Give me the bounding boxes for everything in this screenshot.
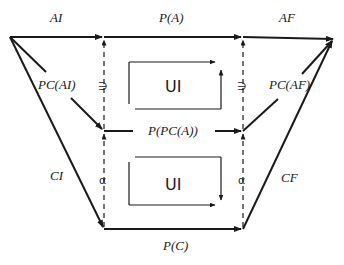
label-pa: P(A) bbox=[158, 10, 184, 25]
diagram-canvas: UI UI AI P(A) AF PC(AI) PC(AF) P(PC(A)) … bbox=[0, 0, 344, 265]
symbol-alpha-left: α bbox=[99, 174, 106, 187]
label-pc-ai: PC(AI) bbox=[37, 77, 76, 92]
edge-cf bbox=[243, 41, 332, 229]
edge-pc-af-lower bbox=[243, 99, 278, 131]
label-ci: CI bbox=[50, 168, 64, 183]
edge-af bbox=[243, 37, 333, 39]
lower-ui-symbol: UI bbox=[165, 175, 181, 194]
label-af: AF bbox=[278, 10, 296, 25]
edge-ci bbox=[10, 37, 103, 227]
upper-ui-symbol: UI bbox=[165, 77, 181, 96]
edge-pc-af-upper bbox=[302, 41, 332, 74]
label-ppca: P(PC(A)) bbox=[147, 123, 198, 138]
lower-ui-box: UI bbox=[129, 157, 221, 205]
symbol-alpha-right: α bbox=[238, 174, 245, 187]
label-ai: AI bbox=[49, 10, 63, 25]
edge-pc-ai-upper bbox=[10, 37, 46, 72]
label-cf: CF bbox=[281, 170, 299, 185]
diagram-svg: UI UI AI P(A) AF PC(AI) PC(AF) P(PC(A)) … bbox=[0, 0, 344, 265]
symbol-contains-right: ∋ bbox=[237, 80, 247, 93]
label-pc: P(C) bbox=[162, 238, 188, 253]
upper-ui-box: UI bbox=[129, 62, 221, 109]
edge-pc-ai-lower bbox=[71, 98, 102, 129]
label-pc-af: PC(AF) bbox=[268, 77, 310, 92]
symbol-contains-left: ∋ bbox=[98, 80, 108, 93]
